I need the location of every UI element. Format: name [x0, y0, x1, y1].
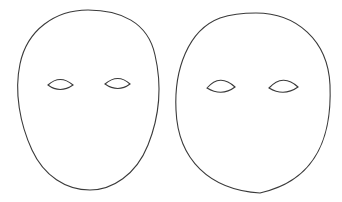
left-face-right-eye [105, 79, 130, 89]
left-face-outline [18, 10, 159, 190]
mask-outlines-illustration [0, 0, 342, 202]
left-face-contour [18, 10, 159, 190]
right-face-contour [176, 13, 330, 193]
right-face-right-eye [269, 80, 298, 92]
right-face-outline [176, 13, 330, 193]
right-face-left-eye [207, 80, 235, 92]
drawing-canvas [0, 0, 342, 202]
left-face-left-eye [48, 80, 73, 90]
